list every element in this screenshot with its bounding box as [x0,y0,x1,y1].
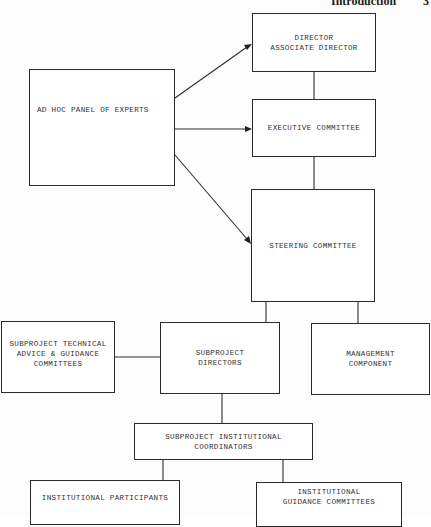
arrowhead-executive [245,126,252,132]
ad-hoc-panel-box: AD HOC PANEL OF EXPERTS [29,69,175,186]
technical-advice-label: SUBPROJECT TECHNICAL ADVICE & GUIDANCE C… [9,339,106,369]
director-label: DIRECTOR ASSOCIATE DIRECTOR [270,33,357,53]
executive-committee-label: EXECUTIVE COMMITTEE [268,123,360,133]
technical-advice-box: SUBPROJECT TECHNICAL ADVICE & GUIDANCE C… [1,321,115,393]
page-number: 3 [423,0,429,9]
institutional-guidance-box: INSTITUTIONAL GUIDANCE COMMITTEES [256,482,402,527]
arrowhead-steering [244,236,251,244]
executive-committee-box: EXECUTIVE COMMITTEE [252,99,376,157]
institutional-participants-label: INSTITUTIONAL PARTICIPANTS [42,493,168,503]
steering-committee-label: STEERING COMMITTEE [269,241,356,251]
arrow-adhoc-to-steering [175,155,247,239]
arrowhead-director [244,44,252,50]
institutional-participants-box: INSTITUTIONAL PARTICIPANTS [30,480,180,525]
director-box: DIRECTOR ASSOCIATE DIRECTOR [252,13,376,72]
ad-hoc-panel-label: AD HOC PANEL OF EXPERTS [37,105,149,115]
subproject-directors-label: SUBPROJECT DIRECTORS [196,348,245,368]
arrow-adhoc-to-director [175,47,247,98]
institutional-guidance-label: INSTITUTIONAL GUIDANCE COMMITTEES [283,487,375,507]
subproject-directors-box: SUBPROJECT DIRECTORS [160,322,280,394]
steering-committee-box: STEERING COMMITTEE [251,189,375,302]
running-header: Introduction 3 [331,0,396,9]
management-component-box: MANAGEMENT COMPONENT [311,323,430,395]
management-component-label: MANAGEMENT COMPONENT [346,349,395,369]
institutional-coordinators-box: SUBPROJECT INSTITUTIONAL COORDINATORS [134,423,313,460]
section-title: Introduction [331,0,396,8]
institutional-coordinators-label: SUBPROJECT INSTITUTIONAL COORDINATORS [165,432,282,452]
